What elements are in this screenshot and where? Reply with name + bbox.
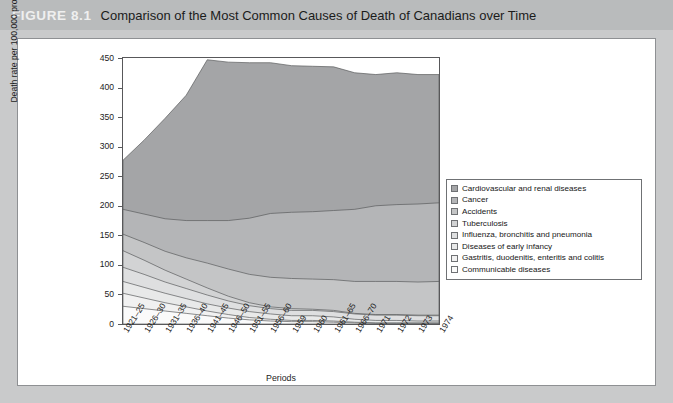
y-axis-tick-label: 200 [80, 200, 114, 210]
legend-item-label: Cardiovascular and renal diseases [462, 185, 586, 193]
legend-item[interactable]: Communicable diseases [451, 264, 637, 276]
figure-title-label: Comparison of the Most Common Causes of … [101, 8, 537, 23]
y-axis-tick-label: 250 [80, 171, 114, 181]
y-axis-tick-label: 450 [80, 53, 114, 63]
plot-area [122, 57, 440, 325]
legend-item[interactable]: Accidents [451, 206, 637, 218]
stacked-area-chart [123, 58, 439, 324]
figure-container: FIGURE 8.1 Comparison of the Most Common… [0, 0, 673, 403]
legend-swatch-icon [451, 266, 458, 273]
y-axis-tick-label: 400 [80, 82, 114, 92]
legend-item-label: Gastritis, duodenitis, enteritis and col… [462, 254, 604, 262]
y-axis-tick-label: 100 [80, 259, 114, 269]
legend-swatch-icon [451, 185, 458, 192]
y-axis-tick-label: 150 [80, 230, 114, 240]
legend-item-label: Accidents [462, 208, 497, 216]
y-axis-title: Death rate per 100,000 prop'n by cause [9, 0, 19, 127]
legend-swatch-icon [451, 208, 458, 215]
legend-swatch-icon [451, 243, 458, 250]
legend-swatch-icon [451, 197, 458, 204]
legend-item[interactable]: Influenza, bronchitis and pneumonia [451, 229, 637, 241]
legend-swatch-icon [451, 232, 458, 239]
legend-item-label: Diseases of early infancy [462, 243, 552, 251]
legend-item[interactable]: Diseases of early infancy [451, 241, 637, 253]
legend-item[interactable]: Cancer [451, 195, 637, 207]
legend-item-label: Influenza, bronchitis and pneumonia [462, 231, 592, 239]
chart-legend: Cardiovascular and renal diseasesCancerA… [446, 179, 642, 280]
y-axis-tick-label: 0 [80, 319, 114, 329]
figure-number-label: FIGURE 8.1 [12, 8, 92, 23]
figure-card: Death rate per 100,000 prop'n by cause 0… [17, 38, 656, 386]
y-axis-tick-label: 350 [80, 112, 114, 122]
legend-item[interactable]: Tuberculosis [451, 218, 637, 230]
legend-item[interactable]: Cardiovascular and renal diseases [451, 183, 637, 195]
y-axis-tick-label: 300 [80, 141, 114, 151]
y-axis-tick-label: 50 [80, 289, 114, 299]
legend-swatch-icon [451, 255, 458, 262]
legend-item-label: Communicable diseases [462, 266, 550, 274]
legend-item-label: Tuberculosis [462, 220, 508, 228]
legend-swatch-icon [451, 220, 458, 227]
figure-header-banner: FIGURE 8.1 Comparison of the Most Common… [0, 0, 673, 30]
x-axis-title: Periods [122, 373, 440, 383]
legend-item[interactable]: Gastritis, duodenitis, enteritis and col… [451, 253, 637, 265]
legend-item-label: Cancer [462, 196, 488, 204]
